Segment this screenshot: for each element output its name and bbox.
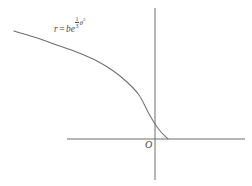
fraction-numerator: 1 [75,16,79,22]
equation-variable: r [54,24,58,34]
equation-exponent: 13θ2 [75,17,85,31]
origin-label: O [145,140,152,150]
exponent-fraction: 13 [75,16,79,30]
fraction-denominator: 3 [75,22,79,29]
spiral-curve [14,31,168,139]
figure-canvas [0,0,252,186]
polar-curve-figure: r=be13θ2 O [0,0,252,186]
equation-equals: = [59,24,64,34]
exponent-power: 2 [83,17,86,22]
curve-equation-label: r=be13θ2 [54,19,85,34]
